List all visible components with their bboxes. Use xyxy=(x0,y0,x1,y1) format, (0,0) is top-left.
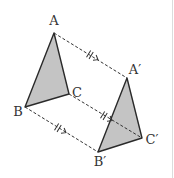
label-a-prime: A′ xyxy=(128,62,141,77)
translation-diagram: A B C A′ B′ C′ xyxy=(0,0,174,178)
segment-b-b-prime xyxy=(25,107,98,152)
label-b-prime: B′ xyxy=(94,154,107,169)
label-a: A xyxy=(48,13,59,28)
triangle-abc xyxy=(25,33,69,107)
segment-a-a-prime xyxy=(54,33,127,78)
label-c-prime: C′ xyxy=(146,132,159,147)
label-b: B xyxy=(13,104,23,119)
label-c: C xyxy=(72,85,82,100)
frame-border xyxy=(172,0,173,178)
diagram-svg: A B C A′ B′ C′ xyxy=(0,0,174,178)
